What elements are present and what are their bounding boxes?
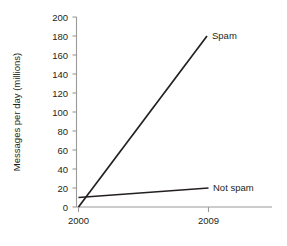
y-tick-label-60: 60: [57, 145, 68, 156]
y-tick-label-20: 20: [57, 183, 68, 194]
y-tick-label-120: 120: [52, 88, 68, 99]
chart-canvas: 200 180 160 140 120 100 80 60 40 20 0 Me…: [0, 0, 287, 246]
chart-background: [0, 0, 287, 246]
series-label-spam: Spam: [212, 30, 237, 41]
series-label-not-spam: Not spam: [213, 182, 254, 193]
y-tick-label-80: 80: [57, 126, 68, 137]
y-tick-label-40: 40: [57, 164, 68, 175]
y-axis-title: Messages per day (millions): [11, 53, 22, 171]
y-tick-label-200: 200: [52, 12, 68, 23]
y-tick-label-100: 100: [52, 107, 68, 118]
line-chart: 200 180 160 140 120 100 80 60 40 20 0 Me…: [0, 0, 287, 246]
y-tick-label-160: 160: [52, 50, 68, 61]
y-tick-label-0: 0: [63, 202, 68, 213]
x-tick-label-2000: 2000: [68, 215, 89, 226]
y-tick-label-180: 180: [52, 31, 68, 42]
x-tick-label-2009: 2009: [198, 215, 219, 226]
y-tick-label-140: 140: [52, 69, 68, 80]
